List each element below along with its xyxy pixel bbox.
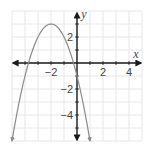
chart-canvas: −2242−2−4xy [0,0,146,149]
x-tick-label: −2 [45,66,58,78]
y-tick-label: −4 [60,109,73,121]
x-tick-label: 4 [126,66,132,78]
x-tick-label: 2 [100,66,106,78]
y-axis-label: y [80,7,87,21]
y-tick-label: 2 [67,31,73,43]
y-tick-label: −2 [60,83,73,95]
x-axis-label: x [132,47,139,61]
